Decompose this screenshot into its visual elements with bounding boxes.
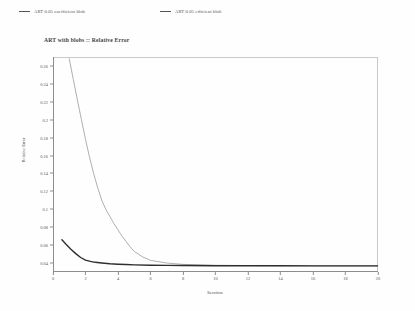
x-tick: 12	[246, 272, 250, 281]
x-tick-mark	[182, 272, 183, 275]
x-tick: 18	[343, 272, 347, 281]
x-tick-label: 18	[343, 276, 347, 281]
y-tick-label: 0.26	[40, 63, 48, 68]
x-tick: 8	[182, 272, 184, 281]
series-line	[62, 240, 378, 266]
x-tick-label: 6	[149, 276, 151, 281]
x-tick-label: 2	[84, 276, 86, 281]
y-tick-label: 0.16	[40, 153, 48, 158]
y-tick-label: 0.22	[40, 99, 48, 104]
x-tick-mark	[280, 272, 281, 275]
y-tick: 0.1	[43, 207, 54, 212]
y-tick-label: 0.06	[40, 243, 48, 248]
y-tick-label: 0.08	[40, 225, 48, 230]
x-axis-ticks: 02468101214161820	[53, 272, 378, 288]
x-tick-mark	[247, 272, 248, 275]
y-tick-label: 0.14	[40, 171, 48, 176]
x-tick-label: 14	[278, 276, 282, 281]
y-tick: 0.04	[40, 261, 53, 266]
y-tick: 0.06	[40, 243, 53, 248]
y-tick-label: 0.1	[43, 207, 49, 212]
x-tick-label: 0	[52, 276, 54, 281]
series-line	[69, 59, 378, 266]
y-axis-ticks: 0.040.060.080.10.120.140.160.180.20.220.…	[0, 57, 53, 272]
plot-container: 0.040.060.080.10.120.140.160.180.20.220.…	[0, 0, 415, 311]
x-tick-mark	[377, 272, 378, 275]
x-tick: 0	[52, 272, 54, 281]
x-tick-mark	[85, 272, 86, 275]
y-tick: 0.14	[40, 171, 53, 176]
y-tick: 0.12	[40, 189, 53, 194]
y-tick: 0.24	[40, 81, 53, 86]
y-tick: 0.08	[40, 225, 53, 230]
x-tick: 10	[213, 272, 217, 281]
x-tick-mark	[312, 272, 313, 275]
x-tick-mark	[150, 272, 151, 275]
y-tick-label: 0.2	[43, 117, 49, 122]
x-tick: 2	[84, 272, 86, 281]
x-tick-label: 16	[311, 276, 315, 281]
x-tick: 20	[376, 272, 380, 281]
y-axis-label: Relative Error	[21, 138, 26, 163]
x-tick-label: 12	[246, 276, 250, 281]
x-tick-label: 20	[376, 276, 380, 281]
x-tick-label: 4	[117, 276, 119, 281]
chart-page: ART 0.05 coefficient blob ART 0.05 effic…	[0, 0, 415, 311]
x-tick-mark	[117, 272, 118, 275]
y-tick-label: 0.04	[40, 261, 48, 266]
y-tick: 0.26	[40, 63, 53, 68]
series-lines	[53, 57, 378, 272]
x-tick: 6	[149, 272, 151, 281]
x-tick-mark	[52, 272, 53, 275]
x-tick: 4	[117, 272, 119, 281]
y-tick: 0.2	[43, 117, 54, 122]
x-tick: 16	[311, 272, 315, 281]
y-tick-label: 0.18	[40, 135, 48, 140]
x-tick: 14	[278, 272, 282, 281]
y-tick-label: 0.24	[40, 81, 48, 86]
y-tick: 0.16	[40, 153, 53, 158]
y-tick: 0.22	[40, 99, 53, 104]
x-axis-label: Iteration	[207, 290, 223, 295]
x-tick-mark	[345, 272, 346, 275]
y-tick: 0.18	[40, 135, 53, 140]
x-tick-mark	[215, 272, 216, 275]
x-tick-label: 8	[182, 276, 184, 281]
x-tick-label: 10	[213, 276, 217, 281]
y-tick-label: 0.12	[40, 189, 48, 194]
